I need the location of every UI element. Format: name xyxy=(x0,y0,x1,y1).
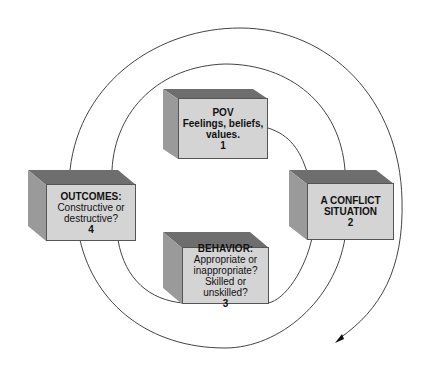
box-pov: POV Feelings, beliefs, values. 1 xyxy=(163,89,268,159)
box-number: 1 xyxy=(220,140,226,151)
box-line: Feelings, beliefs, xyxy=(183,118,264,129)
box-title: A CONFLICT xyxy=(320,195,380,206)
box-top-face xyxy=(289,170,394,184)
box-line: Constructive or xyxy=(57,202,124,213)
box-title: BEHAVIOR: xyxy=(198,243,253,254)
box-number: 4 xyxy=(88,224,94,235)
box-top-face xyxy=(28,170,136,185)
box-line: SITUATION xyxy=(324,206,377,217)
box-line: inappropriate? xyxy=(194,265,258,276)
box-number: 2 xyxy=(348,217,354,228)
box-front-face: BEHAVIOR: Appropriate or inappropriate? … xyxy=(182,247,269,304)
box-line: Appropriate or xyxy=(194,254,257,265)
box-outcomes: OUTCOMES: Constructive or destructive? 4 xyxy=(28,170,136,241)
box-title: OUTCOMES: xyxy=(60,191,121,202)
box-side-face xyxy=(163,89,178,159)
box-number: 3 xyxy=(223,298,229,309)
box-line: values. xyxy=(206,129,240,140)
box-line: Skilled or unskilled? xyxy=(183,276,268,298)
box-conflict: A CONFLICT SITUATION 2 xyxy=(289,170,394,240)
box-behavior: BEHAVIOR: Appropriate or inappropriate? … xyxy=(163,232,269,304)
box-line: destructive? xyxy=(64,213,118,224)
arrowhead-icon xyxy=(335,334,344,343)
box-front-face: A CONFLICT SITUATION 2 xyxy=(307,183,394,240)
box-title: POV xyxy=(212,107,233,118)
box-front-face: POV Feelings, beliefs, values. 1 xyxy=(178,98,268,159)
box-front-face: OUTCOMES: Constructive or destructive? 4 xyxy=(46,184,136,241)
